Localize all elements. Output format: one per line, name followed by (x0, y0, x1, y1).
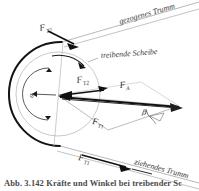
label-driving-pulley: treibende Scheibe (101, 47, 159, 60)
wrap-angle-arrow-top (46, 68, 52, 72)
label-angle-beta: β (141, 107, 147, 117)
construction-line-upper-right (141, 82, 179, 106)
label-force-t1-outer-subscript: T1 (83, 159, 90, 166)
figure-caption: Abb. 3.142 Kräfte und Winkel bei treiben… (4, 179, 182, 188)
label-force-t2-inner-subscript: T2 (83, 79, 90, 86)
label-force-axial-subscript: A (125, 85, 131, 91)
force-t1-inner-vector (60, 97, 179, 107)
angle-beta-arc (146, 110, 152, 119)
angle-beta-tick (152, 119, 156, 124)
rotation-direction-arrowhead (78, 62, 86, 69)
figure-caption-band: Abb. 3.142 Kräfte und Winkel bei treiben… (0, 179, 199, 191)
leader-line-driving-pulley (88, 58, 98, 62)
label-belt-tight-side: gezogenes Trumm (118, 1, 176, 26)
label-force-t1-inner-subscript: T1 (97, 123, 104, 130)
angle-beta-wedge (150, 113, 164, 121)
belt-drive-force-diagram: gezogenes Trumm ziehendes Trumm treibend… (0, 0, 199, 191)
label-belt-slack-side: ziehendes Trumm (133, 157, 190, 180)
wrap-angle-arrow-bottom (45, 116, 51, 120)
label-force-t2-outer-subscript: T2 (46, 27, 53, 34)
